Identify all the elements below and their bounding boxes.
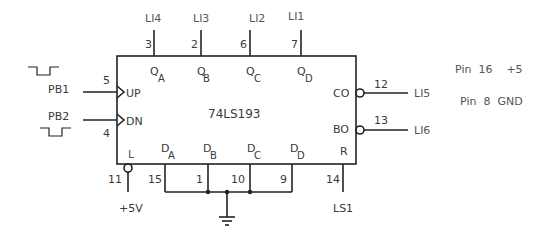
svg-text:CO: CO bbox=[333, 87, 350, 100]
svg-text:A: A bbox=[158, 73, 165, 84]
svg-text:LS1: LS1 bbox=[333, 202, 353, 215]
svg-text:LI3: LI3 bbox=[193, 12, 209, 25]
svg-text:D: D bbox=[305, 73, 313, 84]
svg-text:15: 15 bbox=[148, 173, 162, 186]
svg-text:4: 4 bbox=[103, 127, 110, 140]
svg-text:13: 13 bbox=[374, 114, 388, 127]
output-pin-qd: 7 LI1 Q D bbox=[288, 10, 313, 84]
svg-text:B: B bbox=[203, 73, 210, 84]
output-pin-qc: 6 LI2 Q C bbox=[240, 12, 265, 84]
svg-text:LI5: LI5 bbox=[414, 87, 430, 100]
svg-text:D: D bbox=[297, 150, 305, 161]
svg-text:+5V: +5V bbox=[119, 202, 143, 215]
part-number: 74LS193 bbox=[208, 107, 260, 121]
svg-text:R: R bbox=[340, 145, 348, 158]
svg-text:UP: UP bbox=[126, 87, 141, 100]
reset-pin: R 14 LS1 bbox=[326, 145, 353, 215]
svg-text:B: B bbox=[210, 150, 217, 161]
svg-text:5: 5 bbox=[103, 74, 110, 87]
svg-text:LI1: LI1 bbox=[288, 10, 304, 23]
svg-text:BO: BO bbox=[333, 123, 349, 136]
output-pin-bo: BO 13 LI6 bbox=[333, 114, 430, 137]
svg-text:1: 1 bbox=[196, 173, 203, 186]
input-pin-up: PB1 5 UP bbox=[48, 74, 141, 100]
svg-text:6: 6 bbox=[240, 38, 247, 51]
svg-text:C: C bbox=[254, 150, 261, 161]
svg-text:3: 3 bbox=[145, 38, 152, 51]
svg-text:14: 14 bbox=[326, 173, 340, 186]
svg-text:A: A bbox=[168, 150, 175, 161]
svg-text:11: 11 bbox=[108, 173, 122, 186]
svg-text:PB2: PB2 bbox=[48, 110, 69, 123]
svg-text:DN: DN bbox=[126, 115, 143, 128]
load-pin: L 11 +5V bbox=[108, 148, 143, 215]
output-pin-qa: 3 LI4 Q A bbox=[145, 12, 165, 84]
svg-text:12: 12 bbox=[374, 78, 388, 91]
schematic-canvas: 3 LI4 Q A 2 LI3 Q B 6 LI2 Q C 7 LI1 Q D … bbox=[0, 0, 558, 241]
svg-text:LI6: LI6 bbox=[414, 124, 430, 137]
svg-text:7: 7 bbox=[291, 38, 298, 51]
svg-text:L: L bbox=[128, 148, 135, 161]
svg-text:PB1: PB1 bbox=[48, 83, 69, 96]
output-pin-co: CO 12 LI5 bbox=[333, 78, 430, 100]
ground-icon bbox=[219, 192, 235, 225]
negative-pulse-icon bbox=[40, 128, 71, 136]
data-input-bus: 15 1 10 9 bbox=[148, 164, 292, 194]
ground-note: Pin 8 GND bbox=[460, 95, 523, 108]
svg-text:2: 2 bbox=[191, 38, 198, 51]
power-note: Pin 16 +5 bbox=[455, 63, 523, 76]
output-pin-qb: 2 LI3 Q B bbox=[191, 12, 210, 84]
svg-text:9: 9 bbox=[280, 173, 287, 186]
svg-text:LI4: LI4 bbox=[145, 12, 161, 25]
negative-pulse-icon bbox=[28, 67, 59, 75]
svg-text:LI2: LI2 bbox=[249, 12, 265, 25]
svg-text:10: 10 bbox=[231, 173, 245, 186]
svg-text:C: C bbox=[254, 73, 261, 84]
